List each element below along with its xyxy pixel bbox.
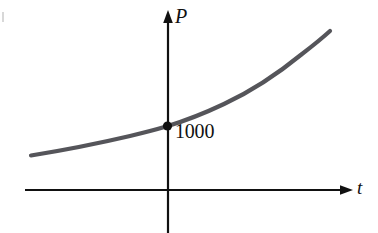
intercept-value-label: 1000 <box>175 121 214 141</box>
graph-canvas <box>0 0 378 233</box>
t-axis-label: t <box>357 178 362 197</box>
exponential-graph-figure: P t 1000 <box>0 0 378 233</box>
p-axis-label: P <box>175 6 187 26</box>
intercept-point-marker <box>163 121 172 130</box>
t-axis-arrowhead <box>340 185 353 195</box>
p-axis-arrowhead <box>163 10 173 23</box>
